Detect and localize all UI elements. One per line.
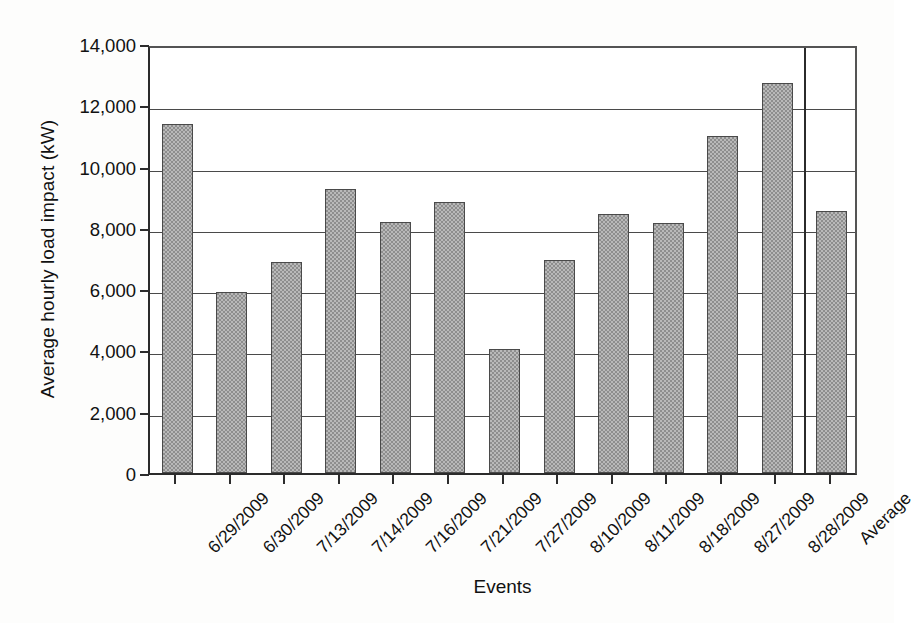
y-tick-mark [140,290,149,292]
average-separator-line [804,48,806,473]
bar-series [150,48,855,473]
y-tick-label: 6,000 [44,280,136,302]
bar[interactable] [816,211,847,473]
y-tick-label: 10,000 [44,158,136,180]
bar[interactable] [762,83,793,473]
bar[interactable] [598,214,629,473]
bar[interactable] [653,223,684,473]
bar[interactable] [707,136,738,473]
x-tick-mark [174,475,176,484]
bar[interactable] [162,124,193,473]
x-axis-title: Events [148,576,857,598]
bar[interactable] [325,189,356,473]
x-tick-mark [392,475,394,484]
x-tick-mark [720,475,722,484]
x-tick-mark [283,475,285,484]
bar[interactable] [271,262,302,473]
x-tick-mark [665,475,667,484]
y-tick-mark [140,106,149,108]
x-tick-mark [338,475,340,484]
y-tick-label: 14,000 [44,35,136,57]
y-tick-mark [140,229,149,231]
y-tick-mark [140,474,149,476]
x-tick-mark [447,475,449,484]
y-tick-mark [140,45,149,47]
y-tick-label: 2,000 [44,403,136,425]
x-tick-mark [502,475,504,484]
bar[interactable] [489,349,520,473]
bar[interactable] [434,202,465,473]
y-tick-label: 0 [44,464,136,486]
y-tick-label: 8,000 [44,219,136,241]
y-tick-label: 4,000 [44,341,136,363]
x-tick-mark [229,475,231,484]
y-axis-tick-labels: 02,0004,0006,0008,00010,00012,00014,000 [44,0,136,623]
plot-area [148,46,857,475]
x-tick-mark [774,475,776,484]
x-tick-mark [829,475,831,484]
y-tick-mark [140,413,149,415]
bar[interactable] [544,260,575,473]
bar[interactable] [216,292,247,473]
bar[interactable] [380,222,411,473]
x-tick-mark [556,475,558,484]
x-tick-mark [611,475,613,484]
y-tick-label: 12,000 [44,96,136,118]
y-tick-mark [140,168,149,170]
y-tick-mark [140,351,149,353]
